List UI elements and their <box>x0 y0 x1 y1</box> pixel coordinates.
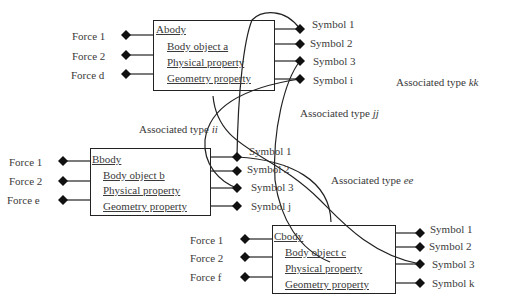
abody-force-1: Force 1 <box>72 30 105 42</box>
cbody-force-1: Force 1 <box>190 234 223 246</box>
association-label-ee: Associated type ee <box>331 174 413 186</box>
bbody-force-1: Force 1 <box>9 156 42 168</box>
bbody-symbol-1: Symbol 1 <box>249 145 291 157</box>
abody-field-physical: Physical property <box>167 56 244 68</box>
abody-symbol-i: Symbol i <box>313 74 353 86</box>
bbody-symbol-2: Symbol 2 <box>247 163 289 175</box>
bbody-title: Bbody <box>92 153 121 165</box>
abody-symbol-1: Symbol 1 <box>312 18 354 30</box>
bbody-field-geometry: Geometry property <box>103 200 187 212</box>
cbody-field-body-object: Body object c <box>285 246 346 258</box>
bbody-symbol-j: Symbol j <box>251 200 291 212</box>
bbody-field-physical: Physical property <box>103 184 180 196</box>
association-label-kk: Associated type kk <box>396 76 478 88</box>
abody-symbol-3: Symbol 3 <box>313 55 355 67</box>
cbody-field-physical: Physical property <box>285 262 362 274</box>
bbody-field-body-object: Body object b <box>103 169 165 181</box>
abody-title: Abody <box>156 23 186 35</box>
abody-force-2: Force 2 <box>72 50 105 62</box>
cbody-symbol-k: Symbol k <box>432 277 474 289</box>
cbody-symbol-2: Symbol 2 <box>429 240 471 252</box>
abody-field-geometry: Geometry property <box>167 72 251 84</box>
cbody-symbol-1: Symbol 1 <box>430 223 472 235</box>
cbody-force-f: Force f <box>190 271 221 283</box>
bbody-force-e: Force e <box>7 194 40 206</box>
cbody-title: Cbody <box>274 230 303 242</box>
association-label-jj: Associated type jj <box>300 107 379 119</box>
abody-force-d: Force d <box>71 69 104 81</box>
bbody-force-2: Force 2 <box>9 175 42 187</box>
bbody-symbol-3: Symbol 3 <box>251 181 293 193</box>
association-label-ii: Associated type ii <box>139 123 218 135</box>
cbody-symbol-3: Symbol 3 <box>432 258 474 270</box>
abody-field-body-object: Body object a <box>167 40 228 52</box>
cbody-field-geometry: Geometry property <box>285 278 369 290</box>
abody-symbol-2: Symbol 2 <box>310 37 352 49</box>
cbody-force-2: Force 2 <box>190 252 223 264</box>
